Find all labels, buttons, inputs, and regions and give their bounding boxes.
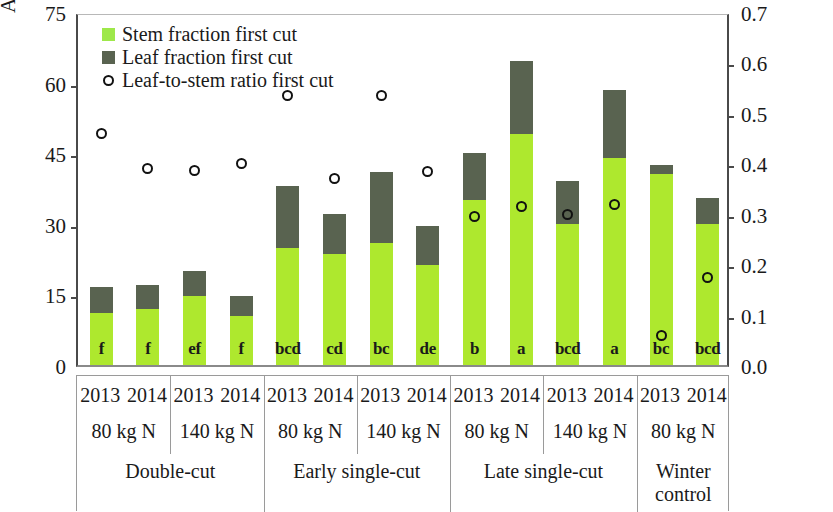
legend-label-stem: Stem fraction first cut	[122, 23, 297, 46]
y2-tick-mark	[727, 166, 734, 168]
treatment-label: Late single-cut	[450, 460, 637, 483]
table-divider	[264, 376, 265, 512]
y2-tick-label: 0.0	[741, 357, 767, 378]
table-divider	[450, 376, 451, 512]
table-divider	[357, 376, 358, 454]
year-label: 2013	[357, 384, 403, 407]
bar-column: f	[90, 287, 113, 365]
ratio-marker	[516, 201, 527, 212]
plot-area: ffeffbcdcdbcdebabcdabcbcd Stem fraction …	[76, 14, 729, 367]
significance-letter: f	[125, 339, 171, 359]
significance-letter: bcd	[265, 339, 311, 359]
y-axis-right-ticks: 0.70.60.50.40.30.20.10.0	[741, 0, 801, 380]
table-divider	[637, 376, 638, 512]
legend-label-ratio: Leaf-to-stem ratio first cut	[122, 69, 334, 92]
bar-segment-leaf	[183, 271, 206, 296]
y-tick-mark	[71, 86, 78, 88]
bar-segment-leaf	[650, 165, 673, 174]
y2-tick-label: 0.4	[741, 155, 767, 176]
significance-letter: bcd	[545, 339, 591, 359]
year-label: 2014	[311, 384, 357, 407]
ratio-marker	[189, 165, 200, 176]
significance-letter: b	[451, 339, 497, 359]
bar-segment-leaf	[416, 226, 439, 265]
legend-label-leaf: Leaf fraction first cut	[122, 46, 292, 69]
significance-letter: f	[78, 339, 124, 359]
bar-segment-leaf	[603, 90, 626, 158]
bar-segment-leaf	[370, 172, 393, 243]
bar-segment-stem	[603, 158, 626, 365]
y-tick-mark	[71, 297, 78, 299]
table-divider	[170, 376, 171, 454]
bar-column: bcd	[276, 186, 299, 365]
y2-tick-mark	[727, 217, 734, 219]
significance-letter: ef	[172, 339, 218, 359]
nitrogen-label: 80 kg N	[77, 420, 170, 443]
year-label: 2014	[124, 384, 170, 407]
bar-column: a	[603, 90, 626, 365]
significance-letter: f	[218, 339, 264, 359]
y2-tick-mark	[727, 116, 734, 118]
chart-legend: Stem fraction first cut Leaf fraction fi…	[102, 23, 334, 92]
bar-column: a	[510, 61, 533, 365]
y2-tick-label: 0.1	[741, 306, 767, 327]
nitrogen-label: 80 kg N	[637, 420, 730, 443]
nitrogen-label: 80 kg N	[450, 420, 543, 443]
ratio-marker	[142, 163, 153, 174]
significance-letter: cd	[312, 339, 358, 359]
y-tick-label: 30	[45, 215, 66, 236]
year-label: 2014	[217, 384, 263, 407]
bar-segment-leaf	[696, 198, 719, 224]
open-circle-icon	[103, 75, 114, 86]
bar-column: b	[463, 153, 486, 365]
ratio-marker	[562, 209, 573, 220]
year-label: 2014	[684, 384, 730, 407]
year-label: 2014	[590, 384, 636, 407]
bar-column: f	[230, 296, 253, 365]
bar-segment-leaf	[230, 296, 253, 316]
ratio-marker	[96, 128, 107, 139]
y2-tick-mark	[727, 65, 734, 67]
bar-column: cd	[323, 214, 346, 365]
y-tick-label: 75	[45, 4, 66, 25]
table-divider	[543, 376, 544, 454]
year-label: 2013	[544, 384, 590, 407]
year-label: 2013	[264, 384, 310, 407]
significance-letter: a	[591, 339, 637, 359]
y-tick-label: 60	[45, 74, 66, 95]
year-label: 2014	[404, 384, 450, 407]
y-tick-label: 45	[45, 145, 66, 166]
bar-segment-leaf	[136, 285, 159, 309]
bar-column: ef	[183, 271, 206, 365]
significance-letter: de	[405, 339, 451, 359]
y2-tick-mark	[727, 318, 734, 320]
nitrogen-label: 80 kg N	[264, 420, 357, 443]
leaf-swatch-icon	[102, 51, 115, 64]
y2-tick-mark	[727, 267, 734, 269]
treatment-label: Double-cut	[77, 460, 264, 483]
year-label: 2013	[450, 384, 496, 407]
treatment-label: Wintercontrol	[637, 460, 730, 506]
y-tick-label: 15	[45, 286, 66, 307]
significance-letter: bc	[638, 339, 684, 359]
significance-letter: a	[498, 339, 544, 359]
y2-tick-label: 0.6	[741, 54, 767, 75]
bar-column: de	[416, 226, 439, 365]
y2-tick-label: 0.7	[741, 4, 767, 25]
ratio-marker	[422, 166, 433, 177]
legend-item-leaf: Leaf fraction first cut	[102, 46, 334, 69]
bar-column: bc	[370, 172, 393, 365]
year-label: 2014	[497, 384, 543, 407]
legend-item-stem: Stem fraction first cut	[102, 23, 334, 46]
ratio-marker	[376, 90, 387, 101]
significance-letter: bcd	[685, 339, 731, 359]
bar-segment-leaf	[463, 153, 486, 200]
y2-tick-label: 0.3	[741, 205, 767, 226]
bar-column: f	[136, 285, 159, 365]
nitrogen-label: 140 kg N	[543, 420, 636, 443]
stem-swatch-icon	[102, 28, 115, 41]
year-label: 2013	[637, 384, 683, 407]
treatment-label: Early single-cut	[264, 460, 451, 483]
nitrogen-label: 140 kg N	[357, 420, 450, 443]
